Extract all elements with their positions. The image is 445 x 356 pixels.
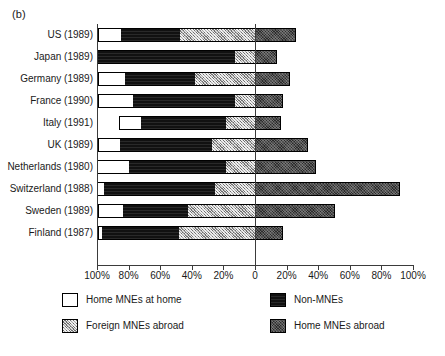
- figure-panel-b: (b) US (1989)Japan (1989)Germany (1989)F…: [0, 0, 445, 356]
- bar-segment: [195, 72, 256, 86]
- legend-swatch: [270, 319, 286, 333]
- panel-label: (b): [12, 8, 26, 20]
- bar-segment: [98, 28, 121, 42]
- bar-segment: [97, 160, 129, 174]
- bar-segment: [212, 138, 256, 152]
- bar-segment: [256, 116, 281, 130]
- bar-row: [98, 90, 414, 112]
- category-label: Sweden (1989): [25, 205, 93, 216]
- category-label: Italy (1991): [43, 117, 93, 128]
- category-axis-labels: US (1989)Japan (1989)Germany (1989)Franc…: [0, 24, 93, 264]
- bar-segment: [256, 72, 290, 86]
- bar-segment: [226, 160, 256, 174]
- bar-segment: [235, 94, 256, 108]
- bar-segment: [215, 182, 256, 196]
- bar-segment: [256, 204, 335, 218]
- category-label: France (1990): [30, 95, 93, 106]
- bar-row: [98, 46, 414, 68]
- bar-row: [98, 156, 414, 178]
- legend-swatch: [62, 293, 78, 307]
- legend-label: Home MNEs at home: [86, 294, 182, 305]
- bar-segment: [125, 72, 195, 86]
- bar-segment: [104, 182, 215, 196]
- bar-segment: [188, 204, 256, 218]
- bar-segment: [98, 138, 120, 152]
- category-label: Japan (1989): [34, 51, 93, 62]
- legend-label: Non-MNEs: [294, 294, 343, 305]
- legend-swatch: [270, 293, 286, 307]
- bar-segment: [98, 50, 235, 64]
- category-label: Switzerland (1988): [10, 183, 93, 194]
- bar-segment: [256, 50, 277, 64]
- category-label: US (1989): [47, 29, 93, 40]
- category-label: Finland (1987): [29, 227, 93, 238]
- chart-legend: Home MNEs at homeNon-MNEsForeign MNEs ab…: [62, 292, 422, 342]
- bar-segment: [226, 116, 256, 130]
- bar-row: [98, 24, 414, 46]
- bar-segment: [129, 160, 226, 174]
- zero-line: [255, 24, 256, 266]
- bar-row: [98, 134, 414, 156]
- bar-segment: [235, 50, 256, 64]
- category-label: Netherlands (1980): [7, 161, 93, 172]
- bar-segment: [98, 204, 123, 218]
- bar-row: [98, 68, 414, 90]
- legend-label: Home MNEs abroad: [294, 320, 385, 331]
- bar-row: [98, 200, 414, 222]
- x-axis-tick-label: 100%: [393, 270, 433, 281]
- bar-segment: [133, 94, 235, 108]
- bar-segment: [123, 204, 188, 218]
- bar-row: [98, 222, 414, 244]
- plot-area: [98, 24, 414, 264]
- bar-segment: [256, 160, 316, 174]
- category-label: UK (1989): [47, 139, 93, 150]
- bar-row: [98, 112, 414, 134]
- legend-label: Foreign MNEs abroad: [86, 320, 184, 331]
- bar-segment: [256, 182, 400, 196]
- bar-segment: [121, 28, 180, 42]
- bar-segment: [119, 116, 141, 130]
- bar-segment: [179, 226, 256, 240]
- bar-segment: [98, 72, 125, 86]
- bar-segment: [120, 138, 212, 152]
- legend-swatch: [62, 319, 78, 333]
- bar-segment: [256, 138, 308, 152]
- bar-row: [98, 178, 414, 200]
- bar-segment: [256, 28, 296, 42]
- axis-left-border: [97, 24, 98, 266]
- bar-segment: [180, 28, 256, 42]
- bar-segment: [141, 116, 226, 130]
- bar-segment: [256, 94, 283, 108]
- category-label: Germany (1989): [20, 73, 93, 84]
- bar-segment: [98, 94, 133, 108]
- bar-segment: [256, 226, 283, 240]
- bar-segment: [102, 226, 179, 240]
